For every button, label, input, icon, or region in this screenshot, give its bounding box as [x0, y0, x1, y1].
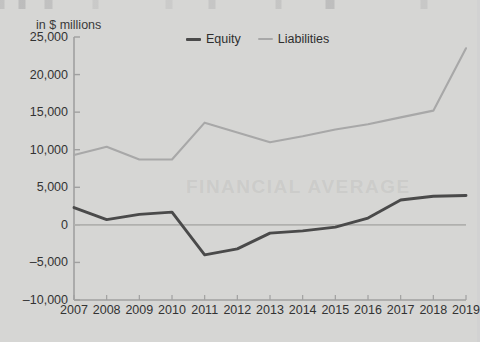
series-line-liabilities	[74, 48, 466, 159]
